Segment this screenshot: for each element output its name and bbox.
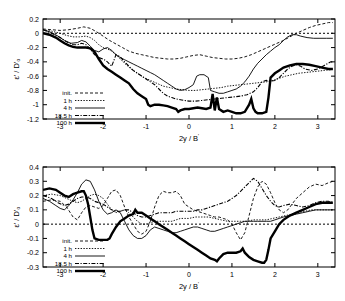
legend-label: 100 h	[57, 267, 73, 274]
y-tick-label: 0	[35, 30, 39, 37]
x-tick-label: 1	[230, 123, 234, 130]
x-tick-label: 3	[316, 123, 320, 130]
figure-container: -3-2-101230.20-0.2-0.4-0.6-0.8-1-1.2init…	[0, 0, 345, 301]
y-axis-label: ε' / D'₀	[12, 207, 21, 228]
legend-label: init.	[62, 237, 72, 244]
y-tick-label: 0.2	[29, 16, 39, 23]
top-chart-svg: -3-2-101230.20-0.2-0.4-0.6-0.8-1-1.2init…	[0, 0, 345, 150]
series-line	[43, 181, 333, 240]
legend-label: 100 h	[57, 119, 73, 126]
x-tick-label: 2	[273, 123, 277, 130]
y-tick-label: 0.4	[29, 164, 39, 171]
y-tick-label: 0.3	[29, 178, 39, 185]
y-tick-label: -0.8	[27, 87, 39, 94]
y-tick-label: 0.1	[29, 206, 39, 213]
legend-label: 1 h	[63, 245, 72, 252]
legend-label: 18.5 h	[55, 260, 73, 267]
legend-label: init.	[62, 89, 72, 96]
y-tick-label: -0.1	[27, 235, 39, 242]
x-tick-label: -1	[143, 123, 149, 130]
chart-panel-bottom: -3-2-101230.40.30.20.10-0.1-0.2-0.3init.…	[0, 150, 345, 301]
series-line	[43, 30, 333, 94]
y-tick-label: -0.4	[27, 58, 39, 65]
bottom-chart-svg: -3-2-101230.40.30.20.10-0.1-0.2-0.3init.…	[0, 150, 345, 301]
x-tick-label: 0	[187, 123, 191, 130]
series-line	[43, 23, 333, 59]
y-tick-label: 0	[35, 221, 39, 228]
plot-frame	[43, 167, 335, 267]
y-tick-label: -1	[33, 101, 39, 108]
x-tick-label: 2	[273, 271, 277, 278]
legend-label: 4 h	[63, 252, 72, 259]
x-tick-label: 3	[316, 271, 320, 278]
y-tick-label: -0.6	[27, 73, 39, 80]
svg-text:ε' / D'₀: ε' / D'₀	[12, 59, 21, 80]
plot-frame	[43, 19, 335, 119]
legend-label: 18.5 h	[55, 112, 73, 119]
x-tick-label: 0	[187, 271, 191, 278]
svg-text:ε' / D'₀: ε' / D'₀	[12, 207, 21, 228]
y-axis-label: ε' / D'₀	[12, 59, 21, 80]
chart-panel-top: -3-2-101230.20-0.2-0.4-0.6-0.8-1-1.2init…	[0, 0, 345, 150]
x-axis-label: 2y / B'	[179, 281, 199, 291]
x-axis-label: 2y / B'	[179, 133, 199, 143]
y-tick-label: -0.2	[27, 249, 39, 256]
series-line	[43, 188, 333, 262]
y-tick-label: -0.3	[27, 264, 39, 271]
series-line	[43, 30, 333, 91]
series-line	[43, 180, 333, 239]
y-tick-label: -0.2	[27, 44, 39, 51]
x-tick-label: 1	[230, 271, 234, 278]
legend-label: 1 h	[63, 97, 72, 104]
y-tick-label: 0.2	[29, 192, 39, 199]
y-tick-label: -1.2	[27, 116, 39, 123]
legend-label: 4 h	[63, 104, 72, 111]
x-tick-label: -1	[143, 271, 149, 278]
